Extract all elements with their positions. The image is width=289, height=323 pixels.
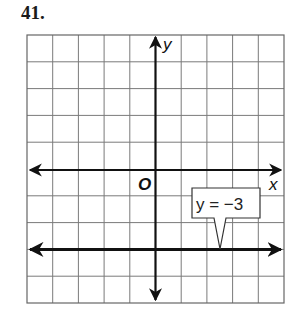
coordinate-plane: y x O y = −3 [0,0,289,323]
callout-label: y = −3 [196,195,243,214]
x-axis-label: x [268,175,278,194]
y-axis-label: y [162,35,173,54]
equation-callout: y = −3 [192,188,260,249]
origin-label: O [138,175,151,194]
